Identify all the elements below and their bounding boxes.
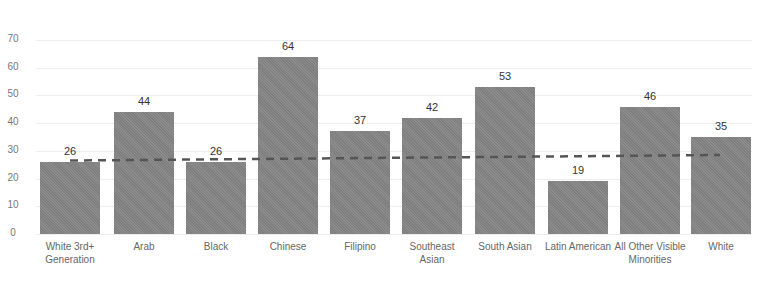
bar-chart: 01020304050607026White 3rd+ Generation44… — [0, 0, 760, 285]
reference-line — [0, 0, 760, 285]
